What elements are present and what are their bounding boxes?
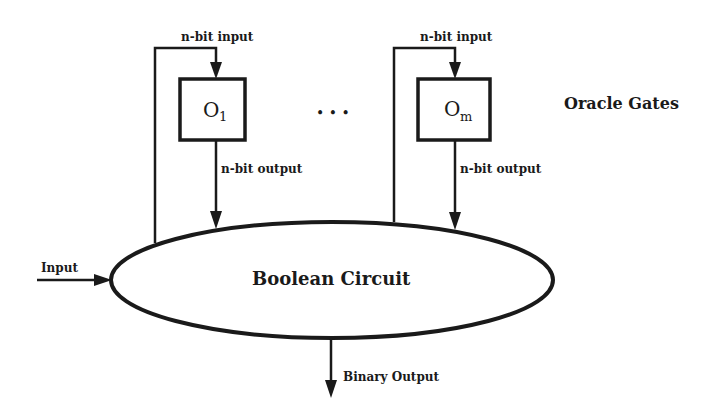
boolean-circuit-label: Boolean Circuit — [252, 268, 411, 289]
oracle-1-input-arrow-icon — [210, 62, 222, 79]
oracle-1-subscript: 1 — [219, 109, 227, 124]
oracle-ellipsis: • • • — [316, 105, 350, 121]
input-label: Input — [41, 261, 78, 275]
oracle-gate-m: n-bit input O m n-bit output — [394, 30, 542, 230]
oracle-m-output-arrow-icon — [449, 212, 461, 230]
oracle-1-input-label: n-bit input — [181, 30, 254, 44]
oracle-1-label: O — [203, 98, 219, 122]
oracle-m-input-arrow-icon — [449, 62, 461, 79]
oracle-1-output-arrow-icon — [210, 211, 222, 229]
oracle-gate-1: n-bit input O 1 n-bit output — [155, 30, 303, 243]
binary-output-arrow-icon — [325, 380, 337, 398]
input-arrow-icon — [94, 274, 112, 286]
oracle-m-label: O — [444, 97, 460, 121]
oracle-circuit-diagram: Boolean Circuit n-bit input O 1 n-bit ou… — [0, 0, 724, 418]
oracle-m-subscript: m — [460, 109, 472, 124]
oracle-1-output-label: n-bit output — [221, 162, 303, 176]
binary-output-label: Binary Output — [343, 370, 440, 384]
oracle-gates-label: Oracle Gates — [564, 94, 679, 113]
oracle-m-input-label: n-bit input — [420, 30, 493, 44]
oracle-m-output-label: n-bit output — [460, 162, 542, 176]
